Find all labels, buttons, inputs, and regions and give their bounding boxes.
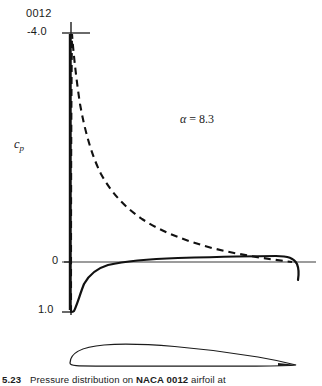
- figure-caption: 5.23Pressure distribution on NACA 0012 a…: [0, 374, 322, 386]
- profile-designation-label: 0012: [26, 8, 52, 19]
- caption-text-post: airfoil at: [188, 374, 225, 385]
- y-tick-label-one: 1.0: [38, 304, 53, 315]
- figure-container: 0012 -4.0 0 1.0 cp α = 8.3 5.23Pressure …: [0, 0, 322, 386]
- caption-text-pre: Pressure distribution on: [30, 374, 136, 385]
- y-tick-label-zero: 0: [52, 255, 58, 266]
- caption-body: Pressure distribution on NACA 0012 airfo…: [30, 374, 226, 385]
- lower-surface-curve: [71, 256, 299, 312]
- y-axis-title: cp: [14, 138, 24, 153]
- cp-symbol-subscript: p: [20, 143, 25, 153]
- angle-of-attack-annotation: α = 8.3: [180, 113, 214, 125]
- alpha-value: = 8.3: [189, 112, 214, 126]
- upper-surface-curve: [71, 34, 292, 312]
- pressure-distribution-plot: [0, 0, 322, 386]
- caption-figure-number: 5.23: [2, 374, 21, 385]
- y-tick-label-neg-4: -4.0: [27, 26, 47, 37]
- caption-airfoil-name: NACA 0012: [136, 374, 188, 385]
- airfoil-profile: [70, 344, 296, 366]
- alpha-symbol: α: [180, 112, 186, 126]
